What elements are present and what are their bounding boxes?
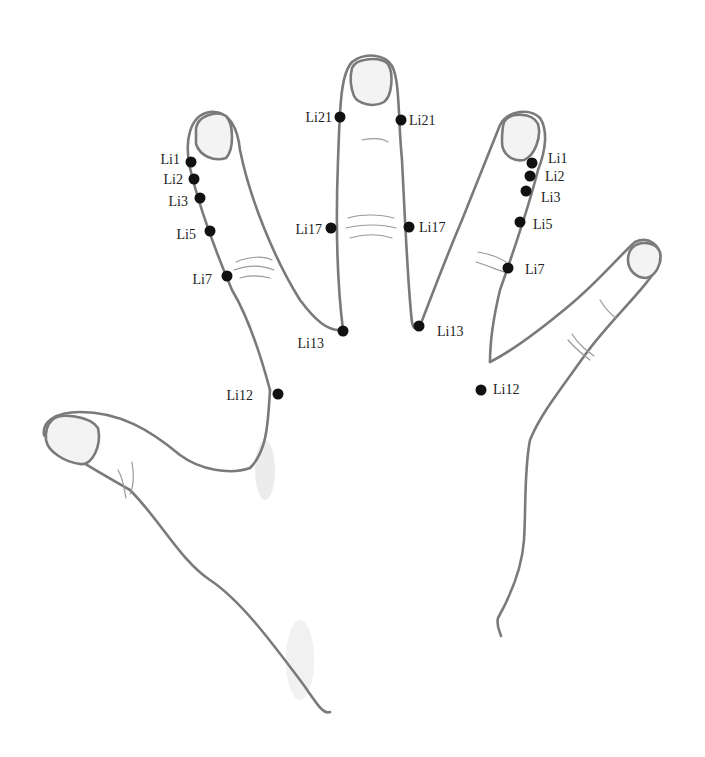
acupoint-li12-right (476, 385, 487, 396)
thumb-nail (46, 416, 99, 464)
label-li1-right: Li1 (548, 152, 567, 166)
acupoint-li13-left (338, 326, 349, 337)
acupoint-li1-left (186, 157, 197, 168)
label-li3-left: Li3 (169, 195, 188, 209)
acupoint-li3-left (195, 193, 206, 204)
label-li17-left: Li17 (296, 223, 322, 237)
acupoint-li5-left (205, 226, 216, 237)
acupoint-li2-right (525, 171, 536, 182)
acupoint-li21-right (396, 115, 407, 126)
label-li2-right: Li2 (545, 170, 564, 184)
acupoint-li13-right (414, 321, 425, 332)
acupoint-li7-left (222, 271, 233, 282)
acupoint-li21-left (335, 112, 346, 123)
label-li5-left: Li5 (177, 228, 196, 242)
acupoint-li2-left (189, 174, 200, 185)
label-li2-left: Li2 (164, 173, 183, 187)
label-li13-left: Li13 (298, 337, 324, 351)
little-finger-outline (490, 240, 660, 636)
label-li7-left: Li7 (193, 273, 212, 287)
label-li5-right: Li5 (533, 218, 552, 232)
label-li17-right: Li17 (419, 221, 445, 235)
acupoint-li5-right (515, 217, 526, 228)
acupoint-li17-right (404, 222, 415, 233)
label-li12-right: Li12 (493, 383, 519, 397)
acupoint-li3-right (521, 186, 532, 197)
acupoint-li12-left (273, 389, 284, 400)
hand-acupoint-diagram: Li1 Li2 Li3 Li5 Li7 Li21 Li21 Li17 Li17 … (0, 0, 705, 757)
little-fingernail (628, 243, 660, 278)
label-li1-left: Li1 (161, 153, 180, 167)
label-li7-right: Li7 (525, 263, 544, 277)
hand-outline-drawing (0, 0, 705, 757)
label-li13-right: Li13 (437, 325, 463, 339)
ring-fingernail (502, 115, 539, 161)
label-li12-left: Li12 (227, 389, 253, 403)
index-fingernail (196, 114, 232, 160)
middle-fingernail (351, 59, 392, 105)
acupoint-li17-left (326, 223, 337, 234)
acupoint-li1-right (527, 158, 538, 169)
label-li3-right: Li3 (541, 191, 560, 205)
acupoint-li7-right (503, 263, 514, 274)
label-li21-right: Li21 (409, 114, 435, 128)
label-li21-left: Li21 (306, 111, 332, 125)
